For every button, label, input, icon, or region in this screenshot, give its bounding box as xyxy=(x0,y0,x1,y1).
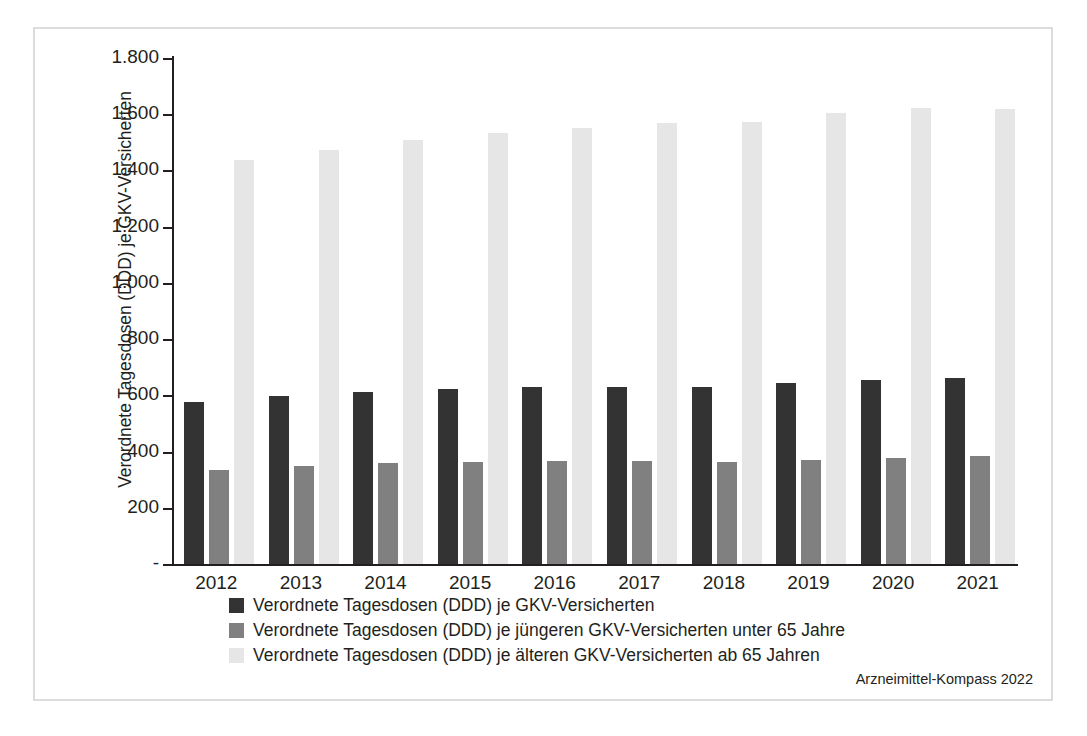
legend-label: Verordnete Tagesdosen (DDD) je GKV-Versi… xyxy=(253,593,654,618)
bar xyxy=(607,387,627,564)
bar xyxy=(945,378,965,564)
bar xyxy=(776,383,796,564)
bar xyxy=(911,108,931,564)
legend-swatch-icon xyxy=(229,598,244,613)
bar xyxy=(234,160,254,564)
legend-item: Verordnete Tagesdosen (DDD) je GKV-Versi… xyxy=(229,593,845,618)
bar-group xyxy=(259,58,344,564)
legend-item: Verordnete Tagesdosen (DDD) je jüngeren … xyxy=(229,618,845,643)
y-axis-tick-mark xyxy=(163,227,172,229)
y-axis-tick-label: 800 xyxy=(127,327,159,349)
bar xyxy=(269,396,289,564)
bar xyxy=(547,461,567,564)
y-axis-tick-label: - xyxy=(153,552,159,574)
bar xyxy=(488,133,508,564)
x-axis-tick-label: 2017 xyxy=(597,572,682,594)
y-axis-tick-label: 1.000 xyxy=(111,271,159,293)
x-axis-tick-label: 2021 xyxy=(935,572,1020,594)
bar-group xyxy=(766,58,851,564)
x-axis-tick-label: 2016 xyxy=(512,572,597,594)
bar xyxy=(717,462,737,564)
x-axis-tick-label: 2012 xyxy=(174,572,259,594)
y-axis-tick-label: 1.400 xyxy=(111,158,159,180)
y-axis-tick-mark xyxy=(163,452,172,454)
legend-item: Verordnete Tagesdosen (DDD) je älteren G… xyxy=(229,643,845,668)
chart-figure: Verordnete Tagesdosen (DDD) je GKV-Versi… xyxy=(33,27,1053,701)
bar-group xyxy=(682,58,767,564)
bar xyxy=(353,392,373,564)
bar-group xyxy=(428,58,513,564)
bar-group xyxy=(597,58,682,564)
y-axis-tick-label: 200 xyxy=(127,496,159,518)
y-axis-tick-mark xyxy=(163,339,172,341)
y-axis-tick-mark xyxy=(163,114,172,116)
bar xyxy=(572,128,592,564)
bar xyxy=(970,456,990,564)
bar xyxy=(742,122,762,564)
bar xyxy=(692,387,712,564)
bar xyxy=(319,150,339,564)
y-axis-tick-mark xyxy=(163,395,172,397)
bar xyxy=(826,113,846,564)
x-axis-tick-label: 2020 xyxy=(851,572,936,594)
y-axis-tick-label: 400 xyxy=(127,440,159,462)
y-axis-tick-label: 1.600 xyxy=(111,102,159,124)
legend-swatch-icon xyxy=(229,648,244,663)
y-axis-tick-mark xyxy=(163,58,172,60)
x-axis-tick-label: 2014 xyxy=(343,572,428,594)
bar-group xyxy=(935,58,1020,564)
bar xyxy=(522,387,542,564)
y-axis-tick-label: 1.800 xyxy=(111,46,159,68)
bar-group xyxy=(174,58,259,564)
x-axis-tick-label: 2015 xyxy=(428,572,513,594)
bar xyxy=(403,140,423,564)
chart-legend: Verordnete Tagesdosen (DDD) je GKV-Versi… xyxy=(229,593,845,668)
axis-area: -2004006008001.0001.2001.4001.6001.800 2… xyxy=(172,58,1018,564)
y-axis-tick-mark xyxy=(163,564,172,566)
legend-label: Verordnete Tagesdosen (DDD) je älteren G… xyxy=(253,643,820,668)
x-axis-line xyxy=(172,564,1018,566)
y-axis-tick-label: 1.200 xyxy=(111,215,159,237)
bar xyxy=(438,389,458,564)
legend-swatch-icon xyxy=(229,623,244,638)
bar xyxy=(294,466,314,564)
bar xyxy=(801,460,821,564)
bar xyxy=(861,380,881,564)
source-credit: Arzneimittel-Kompass 2022 xyxy=(856,671,1033,687)
bar xyxy=(378,463,398,564)
bar-group xyxy=(343,58,428,564)
legend-label: Verordnete Tagesdosen (DDD) je jüngeren … xyxy=(253,618,845,643)
bar-group xyxy=(512,58,597,564)
y-axis-tick-mark xyxy=(163,170,172,172)
bar xyxy=(184,402,204,564)
bar xyxy=(886,458,906,564)
y-axis-tick-label: 600 xyxy=(127,383,159,405)
bar-group xyxy=(851,58,936,564)
bar xyxy=(632,461,652,564)
y-axis-tick-mark xyxy=(163,508,172,510)
bar xyxy=(209,470,229,564)
bar xyxy=(657,123,677,564)
x-axis-tick-label: 2019 xyxy=(766,572,851,594)
y-axis-tick-mark xyxy=(163,283,172,285)
bar xyxy=(995,109,1015,564)
bar xyxy=(463,462,483,564)
x-axis-tick-label: 2018 xyxy=(682,572,767,594)
x-axis-tick-label: 2013 xyxy=(259,572,344,594)
